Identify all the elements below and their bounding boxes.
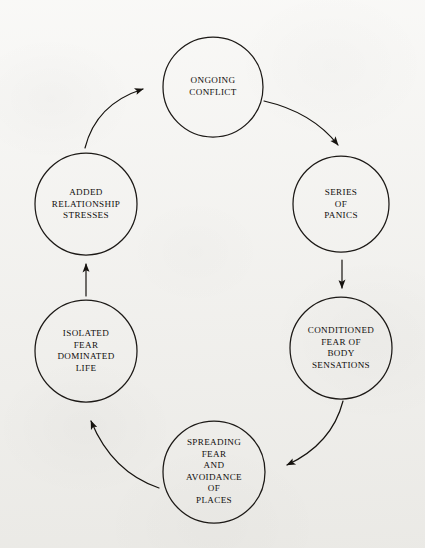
- arrow-conflict-to-panics: [264, 101, 338, 145]
- diagram-page: ONGOING CONFLICT SERIES OF PANICS CONDIT…: [0, 0, 425, 548]
- arrow-conditioned-fear-to-spreading-fear: [287, 401, 343, 465]
- node-circles: [35, 37, 392, 523]
- arrow-relationship-stresses-to-conflict: [85, 89, 143, 148]
- circle-conditioned-fear-of-body-sensations: [290, 297, 392, 399]
- flow-arrows: [85, 89, 343, 488]
- circle-added-relationship-stresses: [35, 153, 137, 255]
- arrow-spreading-fear-to-isolated-life: [91, 421, 159, 488]
- circle-series-of-panics: [293, 156, 389, 252]
- circle-ongoing-conflict: [163, 37, 263, 137]
- circle-isolated-fear-dominated-life: [35, 300, 137, 402]
- circle-spreading-fear-and-avoidance-of-places: [163, 421, 265, 523]
- cycle-diagram: [0, 0, 425, 548]
